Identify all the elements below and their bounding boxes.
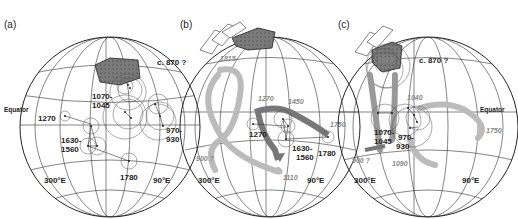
panel-a: (a) Equator c. 870 ? 1070- 1045 1270 163… [4, 19, 200, 217]
age-label-1070-c: 1070- [374, 128, 395, 137]
age-label-1270-italic-b: 1270 [258, 95, 274, 102]
age-label-1270-a: 1270 [38, 114, 56, 123]
panel-b: (b) 1815 1270 1450 1270 1630- 1560 1780 … [180, 19, 360, 217]
age-label-1270-b: 1270 [249, 130, 267, 139]
age-label-930-a: 930 [166, 135, 180, 144]
age-label-1040-c: 1040 [407, 94, 423, 101]
age-label-1750-c: 1750 [486, 127, 502, 134]
apwp-band-light-c [410, 104, 482, 165]
age-label-1630-b: 1630- [292, 144, 313, 153]
panel-label-a: (a) [4, 19, 16, 30]
age-label-900-c: 900 ? [352, 157, 371, 164]
lon-label-300-c: 300°E [354, 176, 377, 185]
equator-label-c: Equator [480, 106, 505, 114]
confidence-circles-a [60, 74, 176, 169]
paleomagnetic-figure: (a) Equator c. 870 ? 1070- 1045 1270 163… [0, 0, 518, 219]
pole-points-a [64, 84, 164, 162]
age-label-930-c: 930 [396, 142, 410, 151]
apwp-band-light-b [208, 69, 279, 171]
age-label-970-c: 970- [398, 133, 414, 142]
age-label-1780-b: 1780 [318, 149, 336, 158]
age-label-1110-b: 1110 [283, 174, 298, 181]
apwp-path-a [65, 104, 163, 161]
age-label-1090-c: 1090 [392, 160, 408, 167]
age-label-1015-c: 1015 [378, 56, 394, 63]
craton-outline-a [95, 58, 140, 85]
lon-label-300-b: 300°E [198, 176, 221, 185]
lon-label-90-c: 90°E [462, 176, 480, 185]
lon-label-300-a: 300°E [44, 176, 67, 185]
age-label-c870-a: c. 870 ? [157, 58, 186, 67]
age-label-1045-a: 1045 [92, 101, 110, 110]
age-label-1450-b: 1450 [288, 98, 304, 105]
age-label-1045-c: 1045 [374, 137, 392, 146]
age-label-1630-a: 1630- [61, 136, 82, 145]
age-label-1560-a: 1560 [61, 145, 79, 154]
age-label-c870-c: c. 870 ? [419, 56, 448, 65]
panel-c: (c) Equator c. 870 ? 1015 1040 1070- 104… [338, 19, 518, 217]
age-label-1780-a: 1780 [120, 173, 138, 182]
age-label-900-b: 900 ? [196, 155, 215, 162]
panel-label-c: (c) [338, 19, 350, 30]
age-label-1560-b: 1560 [296, 153, 314, 162]
pole-points-c [377, 107, 418, 129]
age-label-1815-b: 1815 [220, 55, 236, 62]
apwp-path-c [378, 108, 418, 128]
panel-label-b: (b) [180, 19, 192, 30]
lon-label-90-a: 90°E [153, 176, 171, 185]
equator-label-a: Equator [4, 106, 29, 114]
lon-label-90-b: 90°E [307, 176, 325, 185]
age-label-1070-a: 1070- [92, 92, 113, 101]
